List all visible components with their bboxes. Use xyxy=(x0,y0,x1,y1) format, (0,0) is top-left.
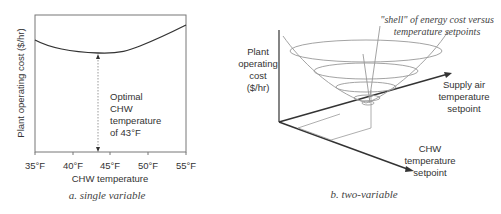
supply-air-label-line-1: Supply air xyxy=(443,79,485,90)
chw-label-line-2: temperature xyxy=(404,155,455,166)
annotation-line-1: Optimal xyxy=(110,91,143,102)
diagram-canvas: 35°F 40°F 45°F 50°F 55°F CHW temperature… xyxy=(0,0,501,214)
chw-label-line-3: setpoint xyxy=(413,167,447,178)
cost-label-line-2: operating xyxy=(238,58,278,69)
arrow-up-icon xyxy=(96,54,100,59)
arrow-right-icon xyxy=(444,72,452,78)
supply-air-label-line-3: setpoint xyxy=(447,103,481,114)
y-axis-label: Plant operating cost ($/hr) xyxy=(15,28,26,137)
energy-cost-shell xyxy=(283,26,449,105)
cost-curve xyxy=(35,25,186,53)
two-variable-diagram: Plant operating cost ($/hr) Supply air t… xyxy=(238,14,494,200)
x-tick-45: 45°F xyxy=(100,160,120,171)
shell-note-line-1: "shell" of energy cost versus xyxy=(380,14,494,25)
cost-label-line-4: ($/hr) xyxy=(247,82,270,93)
x-axis-label: CHW temperature xyxy=(72,173,149,184)
x-tick-50: 50°F xyxy=(138,160,158,171)
x-tick-55: 55°F xyxy=(176,160,196,171)
caption-single-variable: a. single variable xyxy=(69,189,146,201)
caption-two-variable: b. two-variable xyxy=(330,188,397,200)
x-tick-40: 40°F xyxy=(63,160,83,171)
annotation-line-2: CHW xyxy=(110,103,133,114)
supply-air-axis xyxy=(279,74,448,122)
x-tick-35: 35°F xyxy=(25,160,45,171)
cost-label-line-1: Plant xyxy=(247,46,269,57)
shell-note-line-2: temperature setpoints xyxy=(394,26,481,37)
annotation-line-3: temperature xyxy=(110,115,161,126)
single-variable-chart: 35°F 40°F 45°F 50°F 55°F CHW temperature… xyxy=(15,15,196,201)
chw-axis xyxy=(279,122,410,170)
cost-label-line-3: cost xyxy=(249,70,267,81)
arrow-down-icon xyxy=(96,147,100,152)
annotation-line-4: of 43°F xyxy=(110,127,141,138)
supply-air-label-line-2: temperature xyxy=(438,91,489,102)
chw-label-line-1: CHW xyxy=(419,143,442,154)
